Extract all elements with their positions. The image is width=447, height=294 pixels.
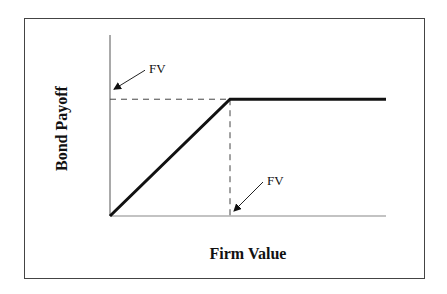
fv-y-arrow-icon: [114, 70, 145, 89]
fv-y-annotation: FV: [149, 61, 166, 76]
fv-x-annotation: FV: [267, 173, 284, 188]
y-axis-label: Bond Payoff: [53, 85, 71, 171]
bond-payoff-line: [110, 99, 386, 216]
chart: FV FV Firm Value Bond Payoff: [0, 0, 447, 294]
fv-x-arrow-icon: [234, 182, 263, 211]
x-axis-label: Firm Value: [210, 245, 287, 262]
